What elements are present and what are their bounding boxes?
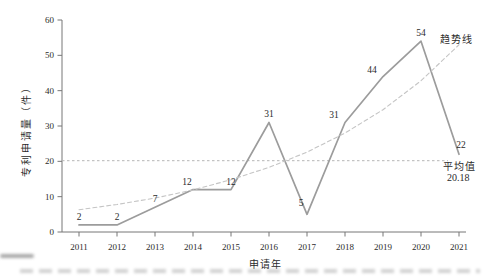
x-tick-label: 2017 — [298, 242, 317, 252]
axis-spines — [62, 20, 466, 232]
point-value-label: 5 — [299, 198, 304, 208]
trend-series-line — [79, 45, 459, 210]
y-tick-label: 60 — [45, 15, 55, 25]
point-value-label: 7 — [153, 194, 158, 204]
cropped-caption-artifact — [20, 269, 480, 273]
point-value-label: 2 — [77, 212, 82, 222]
y-tick-label: 40 — [45, 86, 55, 96]
y-tick-label: 10 — [45, 192, 55, 202]
point-value-label: 2 — [115, 212, 120, 222]
point-value-label: 12 — [182, 177, 192, 187]
x-tick-label: 2013 — [146, 242, 165, 252]
point-value-label: 22 — [456, 140, 466, 150]
x-tick-label: 2014 — [184, 242, 203, 252]
trend-line-label: 趋势线 — [440, 31, 473, 46]
x-tick-label: 2015 — [222, 242, 241, 252]
y-tick-label: 0 — [50, 227, 55, 237]
point-value-label: 12 — [226, 177, 236, 187]
y-tick-label: 50 — [45, 50, 55, 60]
x-tick-label: 2018 — [336, 242, 355, 252]
x-tick-label: 2012 — [108, 242, 126, 252]
y-tick-label: 30 — [45, 121, 55, 131]
x-tick-label: 2020 — [412, 242, 431, 252]
average-line-label: 平均值 — [443, 158, 476, 173]
point-value-label: 54 — [416, 28, 426, 38]
average-line-value: 20.18 — [447, 172, 470, 183]
x-tick-label: 2019 — [374, 242, 393, 252]
y-tick-label: 20 — [45, 156, 55, 166]
x-tick-label: 2011 — [70, 242, 88, 252]
cropped-text-artifact — [0, 254, 34, 258]
point-value-label: 31 — [329, 110, 339, 120]
line-chart-canvas: 0102030405060201120122013201420152016201… — [0, 0, 492, 277]
y-axis-title: 专利申请量（件） — [18, 69, 31, 189]
x-tick-label: 2016 — [260, 242, 279, 252]
point-value-label: 31 — [264, 109, 274, 119]
x-tick-label: 2021 — [450, 242, 468, 252]
point-value-label: 44 — [367, 65, 377, 75]
data-series-line — [79, 41, 459, 225]
chart-figure: 0102030405060201120122013201420152016201… — [0, 0, 492, 277]
